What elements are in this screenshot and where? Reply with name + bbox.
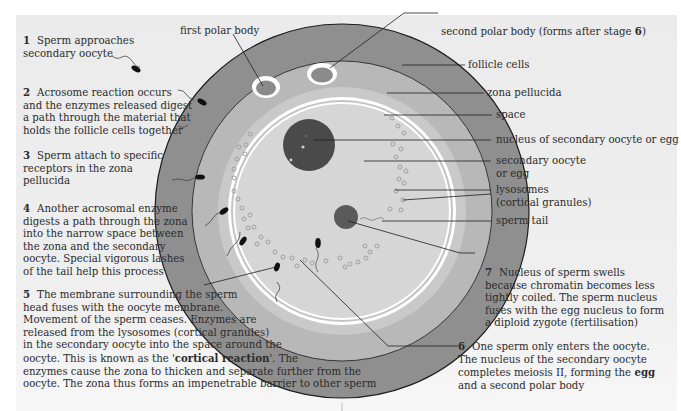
label-lysosomes-line-1: lysosomes xyxy=(496,184,591,197)
stage-5-line: released from the lysosomes (cortical gr… xyxy=(23,327,376,340)
stage-5-line: oocyte. This is known as the ' xyxy=(23,353,175,364)
stage-4-line: Another acrosomal enzyme xyxy=(37,203,178,214)
stage-6-line: completes meiosis II, forming the xyxy=(458,367,634,378)
stage-5-number: 5 xyxy=(23,288,30,300)
stage-3-text: 3Sperm attach to specific receptors in t… xyxy=(23,149,163,188)
stage-5-line: '. The xyxy=(269,353,298,364)
label-second-polar-body-text: second polar body (forms after stage xyxy=(441,26,635,37)
label-second-polar-body: second polar body (forms after stage 6) xyxy=(441,25,646,39)
stage-2-number: 2 xyxy=(23,86,30,98)
label-second-polar-body-close: ) xyxy=(642,26,646,37)
stage-4-line: of the tail help this process xyxy=(23,266,188,279)
stage-7-text: 7Nucleus of sperm swells because chromat… xyxy=(485,266,664,330)
stage-6-line: The nucleus of the secondary oocyte xyxy=(458,354,655,367)
stage-4-line: into the narrow space between xyxy=(23,228,188,241)
label-secondary-oocyte-line-2: or egg xyxy=(496,168,586,181)
stage-5-line: Movement of the sperm ceases. Enzymes ar… xyxy=(23,314,376,327)
stage-7-line: because chromatin becomes less xyxy=(485,280,664,293)
stage-6-line: and a second polar body xyxy=(458,380,655,393)
stage-6-text: 6One sperm only enters the oocyte. The n… xyxy=(458,340,655,392)
stage-5-line: head fuses with the oocyte membrane. xyxy=(23,302,376,315)
stage-7-line: a diploid zygote (fertilisation) xyxy=(485,317,664,330)
label-zona-pellucida: zona pellucida xyxy=(487,87,562,100)
stage-7-line: fuses with the egg nucleus to form xyxy=(485,305,664,318)
stage-3-line: receptors in the zona xyxy=(23,163,163,176)
stage-4-number: 4 xyxy=(23,202,30,214)
oocyte-nucleus xyxy=(283,119,335,171)
cortical-reaction-term: cortical reaction xyxy=(175,352,270,364)
stage-6-number: 6 xyxy=(458,340,465,352)
egg-term: egg xyxy=(634,366,655,378)
stage-1-line: Sperm approaches xyxy=(37,35,134,46)
stage-7-number: 7 xyxy=(485,266,492,278)
stage-2-line: holds the follicle cells together xyxy=(23,125,192,138)
stage-2-line: and the enzymes released digest xyxy=(23,100,192,113)
stage-7-line: tightly coiled. The sperm nucleus xyxy=(485,292,664,305)
stage-5-line: oocyte. The zona thus forms an impenetra… xyxy=(23,378,376,391)
stage-6-line: One sperm only enters the oocyte. xyxy=(472,341,650,352)
stage-1-number: 1 xyxy=(23,34,30,46)
stage-7-line: Nucleus of sperm swells xyxy=(499,267,625,278)
label-nucleus: nucleus of secondary oocyte or egg xyxy=(496,134,679,147)
stage-3-line: pellucida xyxy=(23,175,163,188)
sperm-nucleus xyxy=(334,205,358,229)
stage-1-text: 1Sperm approaches secondary oocyte xyxy=(23,34,134,60)
label-second-polar-body-stage: 6 xyxy=(635,25,642,37)
stage-2-line: a path through the material that xyxy=(23,112,192,125)
label-secondary-oocyte: secondary oocyteor egg xyxy=(496,155,586,180)
stage-4-line: oocyte. Special vigorous lashes xyxy=(23,253,188,266)
stage-5-line: in the secondary oocyte into the space a… xyxy=(23,339,376,352)
stage-4-line: the zona and the secondary xyxy=(23,241,188,254)
label-space: space xyxy=(496,109,526,122)
label-sperm-tail: sperm tail xyxy=(496,215,548,228)
label-lysosomes-line-2: (cortical granules) xyxy=(496,197,591,210)
stage-5-line: The membrane surrounding the sperm xyxy=(37,289,237,300)
label-secondary-oocyte-line-1: secondary oocyte xyxy=(496,155,586,168)
label-lysosomes: lysosomes(cortical granules) xyxy=(496,184,591,209)
stage-2-text: 2Acrosome reaction occurs and the enzyme… xyxy=(23,86,192,137)
stage-4-text: 4Another acrosomal enzyme digests a path… xyxy=(23,202,188,279)
stage-4-line: digests a path through the zona xyxy=(23,216,188,229)
stage-3-number: 3 xyxy=(23,149,30,161)
stage-5-text: 5The membrane surrounding the sperm head… xyxy=(23,288,376,391)
stage-3-line: Sperm attach to specific xyxy=(37,150,163,161)
first-polar-body xyxy=(252,76,280,98)
stage-1-line: secondary oocyte xyxy=(23,48,134,61)
label-first-polar-body: first polar body xyxy=(180,25,259,38)
stage-5-line: enzymes cause the zona to thicken and se… xyxy=(23,366,376,379)
stage-2-line: Acrosome reaction occurs xyxy=(37,87,172,98)
label-follicle-cells: follicle cells xyxy=(468,59,529,72)
